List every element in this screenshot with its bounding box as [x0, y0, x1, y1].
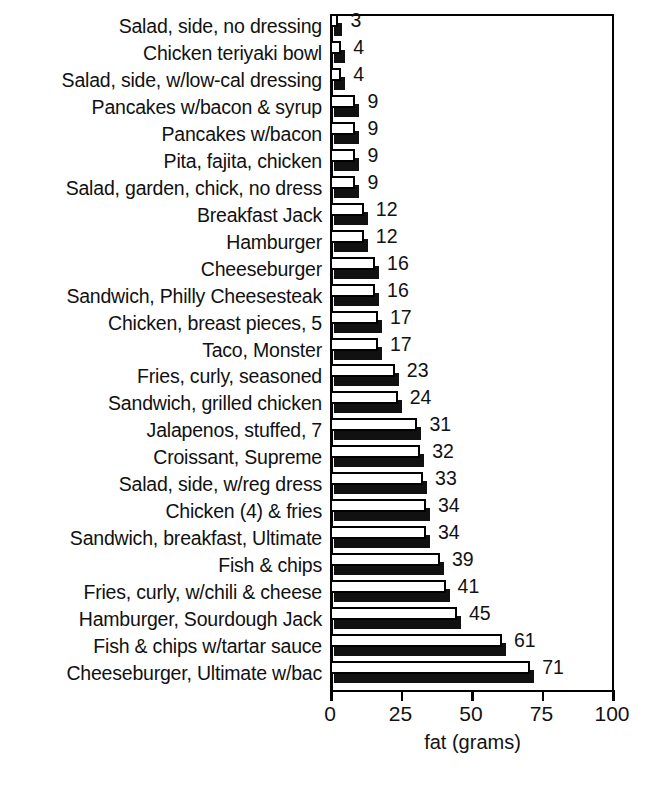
bar: [330, 418, 417, 431]
x-tick-label: 100: [594, 702, 629, 726]
category-label: Jalapenos, stuffed, 7: [0, 419, 322, 441]
category-label: Salad, side, w/reg dress: [0, 473, 322, 495]
bar-row: 17: [330, 311, 615, 338]
x-tick: [542, 690, 545, 701]
bar: [330, 391, 398, 404]
bar-row: 32: [330, 445, 615, 472]
category-label: Hamburger: [0, 231, 322, 253]
bar-value-label: 33: [435, 468, 457, 489]
bar-row: 31: [330, 418, 615, 445]
bar-row: 4: [330, 41, 615, 68]
bar: [330, 41, 341, 54]
category-label: Fries, curly, seasoned: [0, 365, 322, 387]
category-label: Fish & chips w/tartar sauce: [0, 635, 322, 657]
bar-row: 9: [330, 176, 615, 203]
bar-value-label: 34: [438, 495, 460, 516]
x-tick: [612, 690, 615, 701]
bar-value-label: 16: [387, 253, 409, 274]
x-axis-tick-labels: 0255075100: [330, 702, 615, 728]
category-axis-labels: Salad, side, no dressingChicken teriyaki…: [0, 14, 322, 688]
bar-row: 24: [330, 391, 615, 418]
bar: [330, 661, 530, 674]
category-label: Breakfast Jack: [0, 204, 322, 226]
bar: [330, 634, 502, 647]
bar-value-label: 23: [407, 360, 429, 381]
bar: [330, 284, 375, 297]
x-axis-title: fat (grams): [330, 730, 615, 754]
bar-row: 45: [330, 607, 615, 634]
category-label: Fish & chips: [0, 554, 322, 576]
bar: [330, 122, 355, 135]
category-label: Cheeseburger: [0, 258, 322, 280]
x-tick-label: 25: [389, 702, 412, 726]
bar: [330, 14, 338, 27]
bar-row: 23: [330, 364, 615, 391]
bar-value-label: 9: [367, 91, 378, 112]
bar-chart: Salad, side, no dressingChicken teriyaki…: [0, 0, 664, 794]
x-tick-label: 0: [324, 702, 336, 726]
bar-value-label: 34: [438, 522, 460, 543]
bar-value-label: 9: [367, 118, 378, 139]
x-tick-label: 50: [459, 702, 482, 726]
bar: [330, 149, 355, 162]
bar-row: 17: [330, 338, 615, 365]
bar-value-label: 12: [376, 226, 398, 247]
category-label: Pancakes w/bacon: [0, 123, 322, 145]
bars-layer: 3449999121216161717232431323334343941456…: [330, 14, 615, 688]
bar-value-label: 16: [387, 280, 409, 301]
bar: [330, 311, 378, 324]
bar-row: 12: [330, 203, 615, 230]
category-label: Salad, side, w/low-cal dressing: [0, 69, 322, 91]
category-label: Fries, curly, w/chili & cheese: [0, 581, 322, 603]
bar-value-label: 4: [353, 64, 364, 85]
bar-value-label: 12: [376, 199, 398, 220]
bar-row: 71: [330, 661, 615, 688]
bar-value-label: 9: [367, 145, 378, 166]
bar-row: 33: [330, 472, 615, 499]
category-label: Chicken teriyaki bowl: [0, 42, 322, 64]
bar-value-label: 17: [390, 307, 412, 328]
bar: [330, 553, 440, 566]
x-tick: [330, 690, 333, 701]
category-label: Sandwich, breakfast, Ultimate: [0, 527, 322, 549]
bar: [330, 176, 355, 189]
bar: [330, 364, 395, 377]
bar-value-label: 45: [469, 603, 491, 624]
category-label: Salad, side, no dressing: [0, 15, 322, 37]
bar: [330, 230, 364, 243]
bar-value-label: 41: [458, 576, 480, 597]
bar-row: 16: [330, 257, 615, 284]
bar: [330, 68, 341, 81]
x-tick: [401, 690, 404, 701]
bar-row: 3: [330, 14, 615, 41]
x-axis-ticks: [330, 690, 615, 702]
bar: [330, 472, 423, 485]
category-label: Hamburger, Sourdough Jack: [0, 608, 322, 630]
bar-value-label: 31: [429, 414, 451, 435]
bar-value-label: 39: [452, 549, 474, 570]
x-tick-label: 75: [530, 702, 553, 726]
bar: [330, 445, 420, 458]
bar-row: 61: [330, 634, 615, 661]
category-label: Sandwich, grilled chicken: [0, 392, 322, 414]
bar: [330, 338, 378, 351]
category-label: Sandwich, Philly Cheesesteak: [0, 285, 322, 307]
bar-value-label: 9: [367, 172, 378, 193]
bar-value-label: 4: [353, 37, 364, 58]
bar: [330, 257, 375, 270]
bar-row: 16: [330, 284, 615, 311]
category-label: Pancakes w/bacon & syrup: [0, 96, 322, 118]
category-label: Salad, garden, chick, no dress: [0, 177, 322, 199]
bar-value-label: 17: [390, 334, 412, 355]
bar-row: 12: [330, 230, 615, 257]
bar-row: 34: [330, 499, 615, 526]
x-tick: [471, 690, 474, 701]
bar-value-label: 24: [410, 387, 432, 408]
category-label: Chicken (4) & fries: [0, 500, 322, 522]
bar: [330, 95, 355, 108]
category-label: Pita, fajita, chicken: [0, 150, 322, 172]
category-label: Cheeseburger, Ultimate w/bac: [0, 662, 322, 684]
bar: [330, 607, 457, 620]
bar-value-label: 3: [350, 10, 361, 31]
category-label: Taco, Monster: [0, 339, 322, 361]
